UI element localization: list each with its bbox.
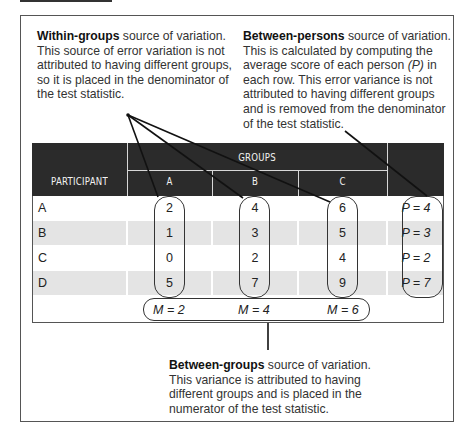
column-header-c: C (308, 175, 377, 188)
between-persons-highlight (402, 196, 443, 298)
header-divider (212, 170, 213, 196)
participant-cell: A (32, 196, 126, 220)
between-groups-note: Between-groups source of variation. This… (169, 358, 384, 416)
within-group-b-highlight (239, 196, 270, 298)
groups-header: GROUPS (156, 151, 359, 164)
column-header-a: A (136, 175, 202, 188)
participant-cell: B (32, 221, 126, 245)
between-groups-highlight (143, 298, 370, 321)
column-header-b: B (221, 175, 288, 188)
table-row: C 0 2 4 P = 2 (32, 246, 444, 271)
table-left-border (32, 196, 33, 323)
between-groups-title: Between-groups (169, 358, 264, 372)
table-header: PARTICIPANT GROUPS A B C (32, 143, 444, 196)
table-row: A 2 4 6 P = 4 (32, 196, 444, 221)
data-table: PARTICIPANT GROUPS A B C A 2 4 6 P = 4 B… (32, 143, 444, 323)
table-row: B 1 3 5 P = 3 (32, 221, 444, 246)
p-symbol: (P) (408, 58, 424, 72)
participant-header: PARTICIPANT (42, 175, 116, 188)
header-divider (387, 143, 388, 196)
within-groups-title: Within-groups (37, 29, 119, 43)
within-group-c-highlight (327, 196, 358, 298)
table-right-border (443, 196, 444, 323)
header-divider (298, 170, 299, 196)
participant-cell: C (32, 246, 126, 270)
participant-cell: D (32, 271, 126, 295)
within-group-a-highlight (154, 196, 185, 298)
table-row: D 5 7 9 P = 7 (32, 271, 444, 296)
between-persons-title: Between-persons (243, 29, 345, 43)
groups-underline (127, 170, 387, 171)
within-groups-note: Within-groups source of variation. This … (37, 29, 237, 102)
between-persons-note: Between-persons source of variation. Thi… (243, 29, 458, 131)
top-rule (20, 0, 112, 2)
